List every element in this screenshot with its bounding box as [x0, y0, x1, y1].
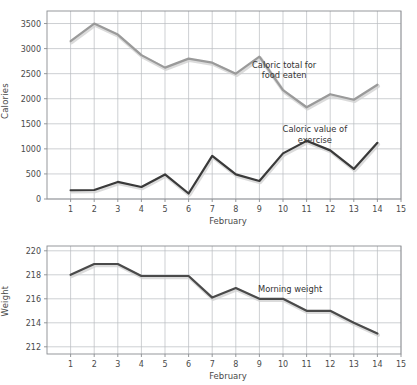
x-tick-label: 10: [278, 360, 288, 369]
svg-text:exercise: exercise: [298, 135, 332, 145]
x-tick-label: 3: [115, 360, 120, 369]
series-line: [71, 24, 379, 109]
x-tick-label: 13: [349, 205, 359, 214]
weight-plot: 212214216218220123456789101112131415Morn…: [0, 232, 417, 385]
x-tick-label: 11: [302, 205, 312, 214]
x-tick-label: 12: [325, 205, 335, 214]
x-tick-label: 8: [233, 360, 238, 369]
y-tick-label: 1000: [21, 145, 41, 154]
x-tick-label: 8: [233, 205, 238, 214]
x-tick-label: 15: [396, 205, 406, 214]
y-tick-label: 220: [26, 247, 41, 256]
x-tick-label: 10: [278, 205, 288, 214]
y-tick-label: 3000: [21, 45, 41, 54]
x-tick-label: 7: [210, 360, 215, 369]
series-annotation: Caloric value ofexercise: [283, 124, 349, 145]
svg-text:Morning weight: Morning weight: [258, 284, 323, 294]
x-tick-label: 14: [372, 360, 382, 369]
x-tick-label: 1: [68, 360, 73, 369]
x-tick-label: 2: [92, 205, 97, 214]
y-tick-label: 212: [26, 343, 41, 352]
x-tick-label: 11: [302, 360, 312, 369]
y-tick-label: 214: [26, 319, 41, 328]
x-tick-label: 12: [325, 360, 335, 369]
x-tick-label: 6: [186, 205, 191, 214]
svg-text:Caloric total for: Caloric total for: [252, 60, 317, 70]
x-tick-label: 7: [210, 205, 215, 214]
x-tick-label: 6: [186, 360, 191, 369]
x-tick-label: 4: [139, 205, 144, 214]
y-tick-label: 2000: [21, 95, 41, 104]
x-tick-label: 3: [115, 205, 120, 214]
x-tick-label: 13: [349, 360, 359, 369]
y-tick-label: 3500: [21, 20, 41, 29]
series-annotation: Caloric total forfood eaten: [252, 60, 317, 81]
x-tick-label: 9: [257, 205, 262, 214]
y-tick-label: 216: [26, 295, 41, 304]
y-tick-label: 218: [26, 271, 41, 280]
x-tick-label: 2: [92, 360, 97, 369]
svg-text:food eaten: food eaten: [262, 70, 307, 80]
x-tick-label: 4: [139, 360, 144, 369]
x-tick-label: 1: [68, 205, 73, 214]
y-tick-label: 1500: [21, 120, 41, 129]
svg-text:Caloric value of: Caloric value of: [283, 124, 349, 134]
calories-chart: Calories February 0500100015002000250030…: [0, 0, 417, 228]
y-tick-label: 2500: [21, 70, 41, 79]
calories-plot: 0500100015002000250030003500123456789101…: [0, 0, 417, 228]
x-tick-label: 15: [396, 360, 406, 369]
x-tick-label: 9: [257, 360, 262, 369]
y-tick-label: 0: [36, 195, 41, 204]
x-tick-label: 5: [162, 360, 167, 369]
x-tick-label: 14: [372, 205, 382, 214]
weight-chart: Weight February 212214216218220123456789…: [0, 232, 417, 385]
y-tick-label: 500: [26, 170, 41, 179]
x-tick-label: 5: [162, 205, 167, 214]
series-annotation: Morning weight: [258, 284, 323, 294]
